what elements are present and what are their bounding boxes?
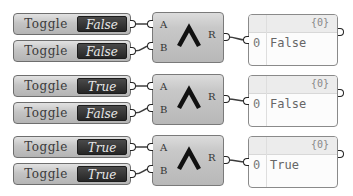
and-gate-component[interactable]: A B R: [152, 74, 224, 125]
toggle-value[interactable]: True: [77, 139, 127, 155]
panel-index: 0: [253, 158, 260, 172]
panel-divider: [266, 76, 267, 126]
panel-divider: [266, 15, 267, 65]
boolean-toggle[interactable]: Toggle True: [13, 136, 131, 158]
panel-component[interactable]: {0} 0 False: [248, 14, 338, 66]
toggle-label: Toggle: [14, 103, 78, 123]
and-icon: [175, 145, 203, 173]
and-gate-component[interactable]: A B R: [152, 12, 224, 63]
input-grip-icon[interactable]: [147, 143, 153, 151]
boolean-toggle[interactable]: Toggle False: [13, 102, 131, 124]
panel-value: False: [270, 36, 306, 50]
toggle-label: Toggle: [14, 41, 78, 61]
output-r-label: R: [208, 91, 216, 102]
panel-value: False: [270, 97, 306, 111]
panel-component[interactable]: {0} 0 True: [248, 136, 338, 188]
panel-path: {0}: [311, 17, 329, 28]
toggle-label: Toggle: [14, 164, 78, 184]
input-grip-icon[interactable]: [147, 165, 153, 173]
toggle-value[interactable]: False: [77, 105, 127, 121]
input-grip-icon[interactable]: [147, 42, 153, 50]
input-grip-icon[interactable]: [243, 158, 249, 166]
boolean-toggle[interactable]: Toggle False: [13, 13, 131, 35]
toggle-label: Toggle: [14, 14, 78, 34]
toggle-label: Toggle: [14, 137, 78, 157]
input-b-label: B: [160, 165, 167, 176]
and-gate-component[interactable]: A B R: [152, 135, 224, 186]
input-grip-icon[interactable]: [243, 36, 249, 44]
boolean-toggle[interactable]: Toggle True: [13, 163, 131, 185]
input-grip-icon[interactable]: [147, 104, 153, 112]
input-a-label: A: [160, 142, 167, 153]
panel-path: {0}: [311, 78, 329, 89]
panel-index: 0: [253, 36, 260, 50]
toggle-value[interactable]: True: [77, 166, 127, 182]
panel-path: {0}: [311, 139, 329, 150]
output-r-label: R: [208, 29, 216, 40]
input-grip-icon[interactable]: [147, 20, 153, 28]
toggle-value[interactable]: False: [77, 43, 127, 59]
panel-value: True: [270, 158, 299, 172]
input-b-label: B: [160, 42, 167, 53]
input-grip-icon[interactable]: [147, 82, 153, 90]
toggle-label: Toggle: [14, 76, 78, 96]
boolean-toggle[interactable]: Toggle False: [13, 40, 131, 62]
boolean-toggle[interactable]: Toggle True: [13, 75, 131, 97]
and-icon: [175, 84, 203, 112]
input-a-label: A: [160, 81, 167, 92]
panel-component[interactable]: {0} 0 False: [248, 75, 338, 127]
toggle-value[interactable]: True: [77, 78, 127, 94]
input-a-label: A: [160, 19, 167, 30]
toggle-value[interactable]: False: [77, 16, 127, 32]
and-icon: [175, 22, 203, 50]
output-r-label: R: [208, 152, 216, 163]
panel-divider: [266, 137, 267, 187]
input-grip-icon[interactable]: [243, 97, 249, 105]
input-b-label: B: [160, 104, 167, 115]
panel-index: 0: [253, 97, 260, 111]
